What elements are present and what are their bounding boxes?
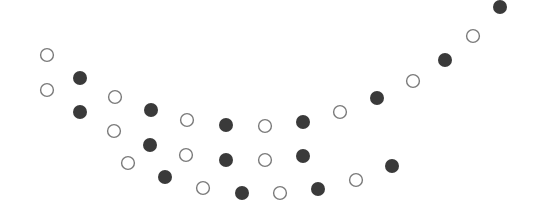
open-circle-dot: [41, 49, 54, 62]
open-circle-dot: [259, 120, 272, 133]
filled-circle-dot: [385, 159, 399, 173]
filled-circle-dot: [73, 71, 87, 85]
filled-circle-dot: [143, 138, 157, 152]
filled-circle-dot: [158, 170, 172, 184]
filled-circle-dot: [370, 91, 384, 105]
open-circle-dot: [467, 30, 480, 43]
filled-circle-dot: [219, 153, 233, 167]
open-circle-dot: [259, 154, 272, 167]
open-circle-dot: [41, 84, 54, 97]
open-circle-dot: [108, 125, 121, 138]
filled-circle-dot: [235, 186, 249, 200]
filled-circle-dot: [219, 118, 233, 132]
filled-circle-dot: [311, 182, 325, 196]
open-circle-dot: [274, 187, 287, 200]
filled-circle-dot: [296, 115, 310, 129]
open-circle-dot: [334, 106, 347, 119]
filled-circle-dot: [144, 103, 158, 117]
filled-circle-dot: [493, 0, 507, 14]
dot-pattern-figure: [0, 0, 548, 224]
open-circle-dot: [181, 114, 194, 127]
dot-pattern-svg: [0, 0, 548, 224]
open-circle-dot: [109, 91, 122, 104]
filled-circle-dot: [73, 105, 87, 119]
open-circle-dot: [350, 174, 363, 187]
open-circle-dot: [197, 182, 210, 195]
filled-circle-dot: [296, 149, 310, 163]
open-circle-dot: [122, 157, 135, 170]
open-circle-dot: [180, 149, 193, 162]
open-circle-dot: [407, 75, 420, 88]
filled-circle-dot: [438, 53, 452, 67]
